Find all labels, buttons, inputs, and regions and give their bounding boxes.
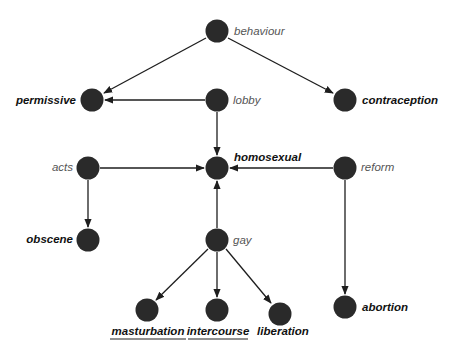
- label-masturbation: masturbation: [112, 325, 185, 337]
- node-permissive: [81, 89, 104, 112]
- node-masturbation: [136, 299, 159, 322]
- node-homosexual: [206, 157, 229, 180]
- concept-graph: behaviour permissive lobby contraception…: [0, 0, 451, 356]
- node-behaviour: [206, 20, 229, 43]
- label-permissive: permissive: [15, 94, 77, 106]
- label-intercourse: intercourse: [187, 325, 250, 337]
- node-abortion: [334, 296, 357, 319]
- edge-gay-liberation: [226, 249, 271, 303]
- label-reform: reform: [361, 161, 395, 173]
- label-acts: acts: [52, 161, 73, 173]
- label-behaviour: behaviour: [234, 25, 286, 37]
- label-liberation: liberation: [257, 325, 309, 337]
- label-lobby: lobby: [233, 94, 262, 106]
- label-gay: gay: [233, 234, 253, 246]
- label-contraception: contraception: [362, 94, 438, 106]
- edge-gay-masturbation: [156, 249, 208, 300]
- label-homosexual: homosexual: [234, 151, 302, 163]
- node-lobby: [206, 89, 229, 112]
- edge-behaviour-contraception: [228, 38, 333, 93]
- node-contraception: [334, 89, 357, 112]
- label-obscene: obscene: [26, 233, 73, 245]
- node-obscene: [77, 229, 100, 252]
- label-abortion: abortion: [362, 301, 408, 313]
- node-acts: [77, 157, 100, 180]
- node-gay: [206, 229, 229, 252]
- node-liberation: [269, 303, 292, 326]
- labels: behaviour permissive lobby contraception…: [15, 25, 438, 339]
- edge-behaviour-permissive: [104, 38, 206, 93]
- node-intercourse: [206, 299, 229, 322]
- node-reform: [334, 157, 357, 180]
